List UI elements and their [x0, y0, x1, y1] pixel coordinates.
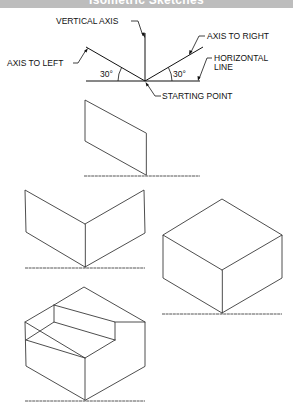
- axis-to-left-leader: [73, 50, 86, 63]
- front-face-top: [25, 322, 85, 358]
- left-face: [85, 100, 146, 175]
- angle-label-right: 30°: [173, 69, 186, 79]
- axis-to-right-label: AXIS TO RIGHT: [207, 31, 269, 41]
- angle-label-left: 30°: [100, 69, 113, 79]
- top-face: [163, 199, 282, 235]
- axis-to-left-label: AXIS TO LEFT: [7, 58, 63, 68]
- left-face: [163, 235, 222, 313]
- arrowhead: [142, 33, 146, 39]
- vertical-axis-label: VERTICAL AXIS: [56, 16, 119, 26]
- angle-arc-left: [118, 68, 122, 82]
- step-2-two-faces: [25, 190, 145, 268]
- starting-point-label: STARTING POINT: [162, 91, 233, 101]
- left-face: [25, 190, 85, 267]
- starting-point-leader: [147, 84, 161, 96]
- axes-diagram: 30° 30° VERTICAL AXIS AXIS TO RIGHT AXIS…: [7, 16, 269, 101]
- step-1-single-face: [84, 100, 200, 176]
- riser-right: [54, 305, 115, 340]
- right-face: [222, 235, 282, 313]
- horizontal-line-label-2: LINE: [214, 62, 233, 72]
- angle-arc-right: [168, 68, 172, 82]
- axis-to-left: [86, 47, 145, 81]
- isometric-sketch-figure: 30° 30° VERTICAL AXIS AXIS TO RIGHT AXIS…: [0, 0, 293, 415]
- step-4-stepped-block: [25, 287, 145, 401]
- right-face: [85, 190, 145, 267]
- vertical-axis-leader: [131, 21, 143, 36]
- horizontal-line-leader: [199, 58, 212, 79]
- step-3-complete-box: [162, 199, 282, 314]
